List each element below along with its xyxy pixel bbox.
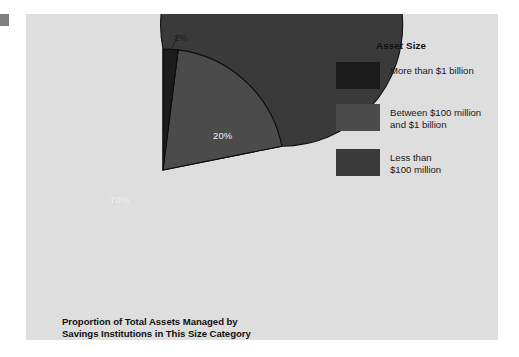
pie-chart: 2% 20% 78% bbox=[26, 14, 498, 340]
legend-swatch-between-100-million-and-1-billion bbox=[336, 104, 380, 131]
legend-swatch-more-than-1-billion bbox=[336, 62, 380, 89]
legend-swatch-less-than-100-million bbox=[336, 149, 380, 176]
pie-svg bbox=[26, 14, 498, 340]
legend-label-line-2: $100 million bbox=[390, 164, 510, 176]
legend-label-between-100-million-and-1-billion: Between $100 million and $1 billion bbox=[390, 107, 510, 131]
pie-label-2-percent: 2% bbox=[174, 33, 188, 43]
chart-canvas: 2% 20% 78% Proportion of Total Assets Ma… bbox=[0, 0, 519, 357]
legend-title: Asset Size bbox=[376, 40, 426, 51]
chart-caption-line-1: Proportion of Total Assets Managed by bbox=[62, 316, 322, 328]
corner-mark bbox=[0, 14, 9, 26]
chart-panel: 2% 20% 78% Proportion of Total Assets Ma… bbox=[26, 14, 498, 340]
chart-caption-line-2: Savings Institutions in This Size Catego… bbox=[62, 328, 322, 340]
chart-caption: Proportion of Total Assets Managed by Sa… bbox=[62, 316, 322, 339]
legend-label-line-1: Less than bbox=[390, 152, 510, 164]
legend-label-less-than-100-million: Less than $100 million bbox=[390, 152, 510, 176]
pie-label-78-percent: 78% bbox=[110, 195, 129, 205]
legend-label-line-1: More than $1 billion bbox=[390, 65, 510, 77]
pie-label-20-percent: 20% bbox=[213, 131, 232, 141]
legend-label-line-2: and $1 billion bbox=[390, 119, 510, 131]
legend-label-line-1: Between $100 million bbox=[390, 107, 510, 119]
legend-label-more-than-1-billion: More than $1 billion bbox=[390, 65, 510, 77]
